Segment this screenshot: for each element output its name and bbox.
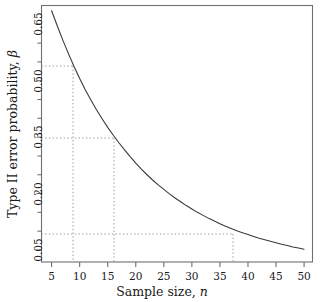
x-tick-label-15: 15 (101, 271, 114, 282)
y-axis-title-text: Type II error probability, (5, 61, 20, 218)
chart-figure: 51015202530354045500.050.200.350.500.65 … (0, 0, 325, 302)
x-axis-title-text: Sample size, (116, 284, 196, 299)
axis-labels: 51015202530354045500.050.200.350.500.65 (0, 0, 325, 302)
y-tick-label-0.5: 0.50 (33, 69, 44, 92)
x-tick-label-5: 5 (48, 271, 55, 282)
x-tick-label-50: 50 (297, 271, 310, 282)
y-axis-title: Type II error probability, β (7, 50, 20, 218)
x-tick-label-45: 45 (269, 271, 282, 282)
x-tick-label-20: 20 (129, 271, 142, 282)
x-tick-label-25: 25 (157, 271, 170, 282)
y-axis-title-var: β (5, 50, 20, 57)
y-tick-label-0.65: 0.65 (33, 13, 44, 36)
y-tick-label-0.35: 0.35 (33, 125, 44, 148)
x-tick-label-35: 35 (213, 271, 226, 282)
y-tick-label-0.2: 0.20 (33, 182, 44, 205)
x-axis-title-var: n (200, 284, 208, 299)
x-tick-label-10: 10 (73, 271, 86, 282)
y-tick-label-0.05: 0.05 (33, 238, 44, 261)
x-tick-label-30: 30 (185, 271, 198, 282)
x-axis-title: Sample size, n (116, 286, 208, 299)
x-tick-label-40: 40 (241, 271, 254, 282)
